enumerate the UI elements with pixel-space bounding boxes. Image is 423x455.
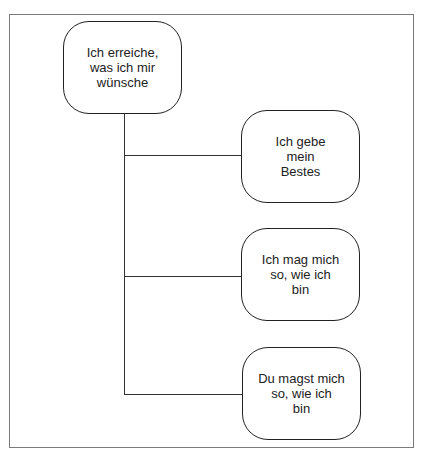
trunk-connector [124,114,125,395]
node-text-line: so, wie ich [262,267,339,282]
node-text-line: bin [258,401,345,416]
node-text-line: was ich mir [87,60,159,75]
node-text-line: mein [276,149,326,164]
node-text-line: Ich mag mich [262,252,339,267]
node-text-line: wünsche [87,75,159,90]
connector-child-3 [124,394,242,395]
connector-child-1 [124,155,241,156]
child-node-1: Ich gebe mein Bestes [241,110,360,203]
node-text-line: Ich gebe [276,134,326,149]
child-node-2: Ich mag mich so, wie ich bin [241,228,360,321]
child-node-3: Du magst mich so, wie ich bin [242,347,361,440]
node-text-line: bin [262,282,339,297]
root-node: Ich erreiche, was ich mir wünsche [63,21,182,114]
node-text-line: Bestes [276,164,326,179]
node-text-line: Ich erreiche, [87,45,159,60]
node-text-line: Du magst mich [258,371,345,386]
node-text-line: so, wie ich [258,386,345,401]
connector-child-2 [124,276,241,277]
